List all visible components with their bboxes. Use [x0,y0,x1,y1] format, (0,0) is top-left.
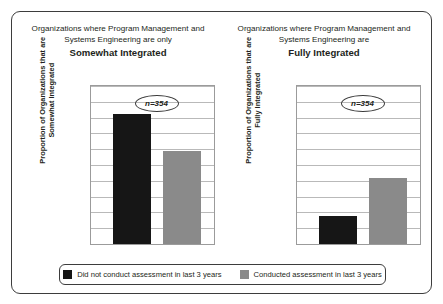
gridline [91,86,214,87]
legend-item-conducted: Conducted assessment in last 3 years [240,270,382,279]
y-axis-label-right: Proportion of Organizations that are Ful… [244,20,262,180]
y-axis-tick-mark [90,86,91,87]
y-axis-tick-mark [296,118,297,119]
y-axis-tick-mark [296,165,297,166]
plot-area-right: 00.10.20.30.40.50.60.70.80.91n=354 [296,85,421,245]
y-axis-label-right-line2: Fully Integrated [253,20,262,180]
y-axis-tick-mark [90,197,91,198]
sample-size-annotation: n=354 [135,95,179,112]
legend-swatch-light-icon [240,270,249,279]
charts-container: Organizations where Program Management a… [12,12,431,262]
legend-label-conducted: Conducted assessment in last 3 years [254,270,382,279]
y-axis-label-left: Proportion of Organizations that are Som… [38,20,56,180]
chart-legend: Did not conduct assessment in last 3 yea… [59,264,386,285]
gridline [91,133,214,134]
plot-canvas-right: 00.10.20.30.40.50.60.70.80.91n=354 [296,85,421,245]
legend-label-did-not-conduct: Did not conduct assessment in last 3 yea… [77,270,221,279]
y-axis-tick-mark [296,133,297,134]
bar-conducted [163,151,201,244]
y-axis-tick-mark [296,149,297,150]
y-axis-tick-mark [296,228,297,229]
gridline [297,149,420,150]
bar-did-not-conduct [113,114,151,244]
chart-panel-somewhat-integrated: Organizations where Program Management a… [20,12,216,262]
plot-canvas-left: 00.10.20.30.40.50.60.70.80.91n=354 [90,85,215,245]
legend-item-did-not-conduct: Did not conduct assessment in last 3 yea… [63,270,221,279]
y-axis-tick-mark [296,244,297,245]
bar-conducted [369,178,407,244]
y-axis-tick-mark [90,181,91,182]
gridline [297,165,420,166]
y-axis-label-right-line1: Proportion of Organizations that are [244,20,253,180]
y-axis-label-left-line2: Somewhat Integrated [47,20,56,180]
y-axis-tick-mark [296,86,297,87]
y-axis-tick-mark [90,165,91,166]
chart-panel-fully-integrated: Organizations where Program Management a… [226,12,422,262]
sample-size-annotation: n=354 [341,95,385,112]
y-axis-tick-mark [90,228,91,229]
gridline [297,86,420,87]
y-axis-tick-mark [296,197,297,198]
y-axis-tick-mark [296,181,297,182]
gridline [297,118,420,119]
sample-size-label: n=354 [135,95,179,112]
y-axis-tick-mark [90,212,91,213]
y-axis-tick-mark [296,102,297,103]
y-axis-tick-mark [90,149,91,150]
y-axis-tick-mark [90,133,91,134]
legend-swatch-dark-icon [63,270,72,279]
gridline [91,118,214,119]
figure-frame: Organizations where Program Management a… [11,11,432,294]
y-axis-label-left-line1: Proportion of Organizations that are [38,20,47,180]
plot-area-left: 00.10.20.30.40.50.60.70.80.91n=354 [90,85,215,245]
y-axis-tick-mark [90,244,91,245]
gridline [297,133,420,134]
sample-size-label: n=354 [341,95,385,112]
y-axis-tick-mark [90,118,91,119]
y-axis-tick-mark [90,102,91,103]
y-axis-tick-mark [296,212,297,213]
bar-did-not-conduct [319,216,357,244]
